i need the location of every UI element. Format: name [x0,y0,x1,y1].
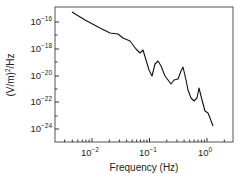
x-tick-label: 10−2 [81,146,99,158]
y-axis-ticks [55,22,59,129]
y-axis-title: (V/m)2/Hz [4,53,16,96]
x-tick-label: 100 [198,146,213,158]
y-tick-label: 10−20 [30,69,52,81]
y-tick-label: 10−18 [30,42,52,54]
psd-data-line [72,12,213,126]
psd-chart: 10−16 10−18 10−20 10−22 10−24 10−2 10−1 … [0,0,242,181]
y-tick-labels: 10−16 10−18 10−20 10−22 10−24 [30,15,52,134]
y-tick-label: 10−24 [30,122,52,134]
x-tick-labels: 10−2 10−1 100 [81,146,212,158]
x-axis-title: Frequency (Hz) [110,162,179,173]
x-tick-label: 10−1 [139,146,157,158]
x-axis-ticks [65,138,225,142]
y-tick-label: 10−16 [30,15,52,27]
plot-frame [55,7,233,142]
y-tick-label: 10−22 [30,95,52,107]
